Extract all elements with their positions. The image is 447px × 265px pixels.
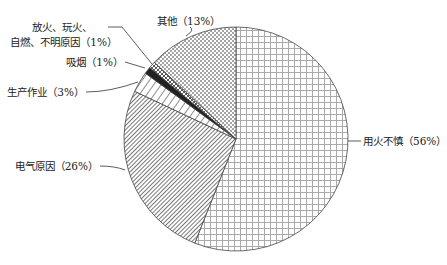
leader-line <box>125 62 145 68</box>
label-smoking: 吸烟（1%） <box>66 56 123 68</box>
label-careless-fire-use: 用火不慎（56%） <box>363 135 446 147</box>
leader-line <box>100 166 125 170</box>
pie-chart: 用火不慎（56%）电气原因（26%）生产作业（3%）吸烟（1%）放火、玩火、自燃… <box>0 0 447 265</box>
label-electrical: 电气原因（26%） <box>15 160 98 172</box>
label-other: 其他（13%） <box>157 15 220 27</box>
leader-line <box>86 82 138 92</box>
label-arson-line2: 自燃、不明原因（1%） <box>10 36 117 48</box>
label-production: 生产作业（3%） <box>7 86 84 98</box>
label-arson-line1: 放火、玩火、 <box>32 21 92 33</box>
leader-line <box>186 27 192 36</box>
